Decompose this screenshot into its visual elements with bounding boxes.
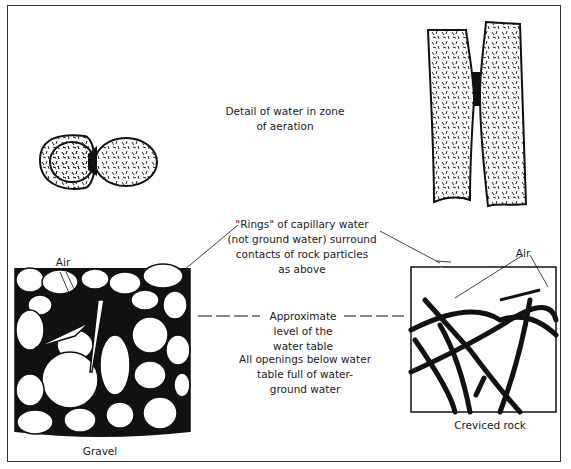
label-capillary-rings: "Rings" of capillary water (not ground w… bbox=[222, 217, 382, 277]
crevice-detail bbox=[428, 22, 526, 206]
label-creviced-rock: Creviced rock bbox=[440, 418, 540, 433]
label-air-left: Air bbox=[48, 255, 78, 270]
label-gravel: Gravel bbox=[70, 444, 130, 459]
label-detail-zone-aeration: Detail of water in zone of aeration bbox=[210, 104, 360, 134]
label-openings-below: All openings below water table full of w… bbox=[220, 352, 390, 397]
label-air-right: Air bbox=[508, 246, 538, 261]
two-grains-detail-left bbox=[40, 135, 95, 189]
label-water-table: Approximate level of the water table bbox=[260, 309, 346, 354]
